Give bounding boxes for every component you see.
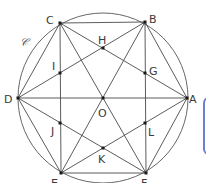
point-l: [144, 122, 147, 125]
label-f: F: [141, 177, 147, 183]
label-e: E: [51, 177, 58, 183]
segment-bf: [145, 22, 146, 173]
point-e: [60, 172, 63, 175]
label-g: G: [149, 65, 158, 78]
label-h: H: [98, 34, 106, 47]
label-b: B: [149, 13, 157, 26]
label-d: D: [4, 93, 12, 106]
segment-ab: [145, 22, 187, 98]
point-g: [144, 72, 147, 75]
label-k: K: [98, 153, 106, 166]
label-j: J: [50, 125, 54, 138]
segment-de: [18, 98, 61, 173]
label-c: C: [46, 14, 54, 27]
label-a: A: [189, 93, 197, 106]
point-c: [59, 22, 62, 25]
segment-bc: [60, 22, 145, 23]
point-k: [102, 147, 105, 150]
label-i: I: [52, 60, 55, 73]
label-circle: 𝒞: [20, 36, 31, 49]
hexagon-diagram: A B C D E F O G H I J K L 𝒞: [0, 0, 206, 183]
point-i: [59, 72, 62, 75]
point-b: [144, 21, 147, 24]
point-o: [102, 97, 105, 100]
point-j: [59, 122, 62, 125]
label-o: O: [98, 107, 107, 120]
segment-ce: [60, 23, 61, 173]
side-tab-edge[interactable]: [203, 97, 206, 155]
label-l: L: [148, 126, 155, 139]
point-d: [17, 97, 20, 100]
point-f: [145, 172, 148, 175]
